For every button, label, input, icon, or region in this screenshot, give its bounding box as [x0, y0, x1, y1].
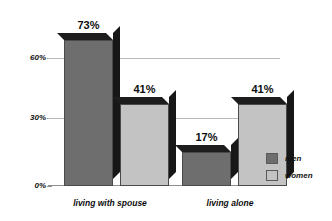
bar-value-women-living-with-spouse: 41% [120, 83, 169, 95]
legend-swatch-men [266, 153, 278, 164]
x-category-label-living-with-spouse: living with spouse [50, 198, 170, 208]
legend-label-men: men [285, 154, 301, 163]
bar-value-men-living-alone: 17% [182, 131, 231, 143]
bar-value-men-living-with-spouse: 73% [64, 19, 113, 31]
bar-side-face [231, 138, 238, 179]
y-tick-label-60: 60% [30, 53, 46, 62]
bar-top-face [231, 97, 287, 104]
y-tick-label-30: 30% [30, 113, 46, 122]
x-category-label-living-alone: living alone [170, 198, 290, 208]
legend: men women [266, 152, 313, 186]
bar-top-face [175, 145, 231, 152]
bar-men-living-with-spouse[interactable] [64, 40, 113, 186]
bar-side-face [169, 90, 176, 179]
legend-item-men[interactable]: men [266, 152, 313, 165]
bar-front-face [120, 104, 169, 186]
bar-women-living-with-spouse[interactable] [120, 104, 169, 186]
y-tick-0: 0% [6, 181, 46, 190]
bar-front-face [64, 40, 113, 186]
bar-top-face [57, 33, 113, 40]
legend-swatch-women [266, 170, 278, 181]
legend-label-women: women [285, 171, 313, 180]
y-tick-30: 30% [6, 113, 46, 122]
bar-value-women-living-alone: 41% [238, 83, 287, 95]
y-tick-label-0: 0% [34, 181, 46, 190]
y-tick-60: 60% [6, 53, 46, 62]
plot-area: 73% 41% 17% 41% [48, 8, 280, 186]
bar-front-face [182, 152, 231, 186]
bar-chart: 60% 30% 0% 73% 41% [0, 0, 332, 221]
bar-top-face [113, 97, 169, 104]
legend-item-women[interactable]: women [266, 169, 313, 182]
bar-men-living-alone[interactable] [182, 152, 231, 186]
